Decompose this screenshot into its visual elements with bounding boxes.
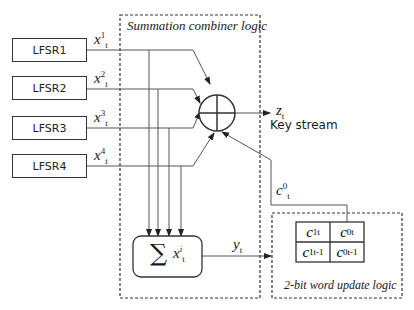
- x1t-label: x1t: [94, 30, 108, 50]
- x4t-label: x4t: [94, 146, 108, 166]
- carry-cell-c1t: c1t: [296, 222, 330, 242]
- lfsr-3-label: LFSR3: [33, 122, 67, 135]
- lfsr-2-label: LFSR2: [33, 82, 67, 95]
- feedback-c0t-label: c0t: [276, 181, 290, 201]
- yt-label: yt: [233, 236, 242, 255]
- x3t-label: x3t: [94, 108, 108, 128]
- x2t-label: x2t: [94, 69, 108, 89]
- lfsr-4-box: LFSR4: [12, 154, 87, 178]
- lfsr-1-box: LFSR1: [12, 38, 87, 62]
- sigma-icon: ∑: [150, 239, 167, 267]
- carry-cell-c1t-1: c1t-1: [296, 242, 330, 262]
- key-stream-label: Key stream: [270, 118, 338, 132]
- sum-block-border: [133, 236, 202, 277]
- sum-xit-label: xit: [173, 244, 185, 264]
- carry-cell-c0t: c0t: [330, 222, 364, 242]
- update-box-title: 2-bit word update logic: [284, 278, 397, 293]
- combiner-box-title: Summation combiner logic: [127, 18, 267, 34]
- carry-cell-c0t-1: c0t-1: [330, 242, 364, 262]
- lfsr-2-box: LFSR2: [12, 76, 87, 100]
- lfsr-4-label: LFSR4: [33, 160, 67, 173]
- xor-icon: [199, 95, 235, 131]
- lfsr-3-box: LFSR3: [12, 116, 87, 140]
- diagram-canvas: Summation combiner logic LFSR1 LFSR2 LFS…: [0, 0, 414, 310]
- lfsr-1-label: LFSR1: [33, 44, 67, 57]
